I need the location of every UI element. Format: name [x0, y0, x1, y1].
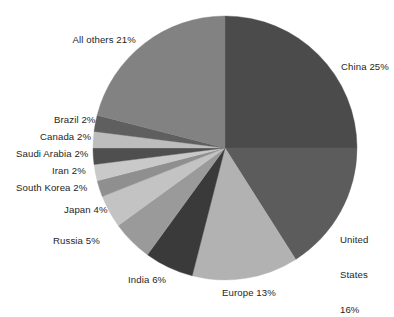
slice-label-russia-text: Russia 5%: [53, 235, 100, 246]
slice-label-india-text: India 6%: [128, 274, 166, 285]
slice-label-brazil: Brazil 2%: [43, 102, 95, 137]
slice-label-united-states-line3: 16%: [340, 304, 368, 316]
slice-label-japan-text: Japan 4%: [64, 204, 107, 215]
slice-label-all-others: All others 21%: [62, 22, 136, 57]
slice-label-united-states-line1: United: [340, 234, 368, 246]
slice-label-europe: Europe 13%: [211, 275, 276, 310]
slice-label-all-others-text: All others 21%: [73, 34, 136, 45]
slice-label-brazil-text: Brazil 2%: [54, 114, 95, 125]
slice-label-india: India 6%: [117, 262, 166, 297]
slice-label-china-text: China 25%: [341, 61, 389, 72]
slice-label-china: China 25%: [330, 49, 389, 84]
slice-label-russia: Russia 5%: [42, 223, 100, 258]
slice-label-europe-text: Europe 13%: [222, 287, 276, 298]
slice-label-united-states: United States 16%: [340, 211, 368, 317]
slice-label-united-states-line2: States: [340, 269, 368, 281]
